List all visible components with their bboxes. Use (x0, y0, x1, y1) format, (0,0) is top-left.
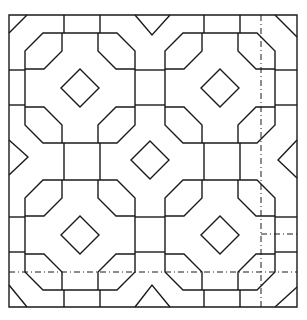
tiling-pattern-figure (0, 0, 307, 320)
diamond-shape (131, 141, 169, 179)
octagon-notch (238, 33, 275, 69)
octagon-notch (25, 180, 62, 216)
edge-half-diamond (135, 285, 170, 307)
diamond-shape (201, 216, 239, 254)
octagon-notch (98, 107, 135, 143)
octagon-shape (25, 180, 135, 290)
octagon-notch (238, 107, 275, 143)
edge-half-diamond (278, 140, 297, 178)
edge-half-diamond (9, 140, 28, 175)
corner-diagonal (9, 285, 27, 307)
corner-diagonal (275, 287, 297, 307)
octagon-notch (165, 180, 202, 216)
octagon-notch (238, 180, 275, 216)
octagon-notch (165, 33, 202, 69)
diamond-shape (61, 216, 99, 254)
octagon-notch (25, 254, 62, 290)
corner-diagonal (9, 15, 27, 33)
pattern-lines (9, 15, 297, 307)
edge-half-diamond (135, 15, 170, 35)
corner-diagonal (275, 15, 297, 37)
octagon-notch (98, 180, 135, 216)
frame-border (9, 15, 297, 307)
octagon-notch (25, 107, 62, 143)
octagon-notch (25, 33, 62, 69)
octagon-shape (165, 180, 275, 290)
diamond-shape (61, 69, 99, 107)
diamond-shape (201, 69, 239, 107)
octagon-notch (165, 107, 202, 143)
octagon-shape (165, 33, 275, 143)
cut-lines (9, 15, 297, 307)
octagon-notch (98, 33, 135, 69)
octagon-shape (25, 33, 135, 143)
